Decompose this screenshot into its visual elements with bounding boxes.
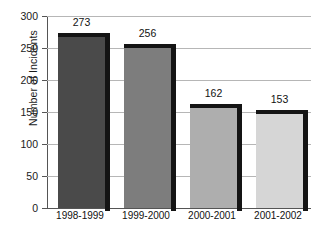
bar-body xyxy=(256,110,303,208)
bar-shadow xyxy=(105,33,110,211)
bar-body xyxy=(58,33,105,208)
y-tick-label: 200 xyxy=(0,75,38,86)
bar-value-label: 256 xyxy=(118,28,178,39)
gridline xyxy=(47,208,311,209)
bar xyxy=(124,44,176,208)
x-tick-label: 1999-2000 xyxy=(110,211,182,221)
bar-value-label: 273 xyxy=(52,17,112,28)
bar xyxy=(58,33,110,208)
bar-body xyxy=(124,44,171,208)
bar-value-label: 162 xyxy=(184,88,244,99)
x-tick-label: 1998-1999 xyxy=(44,211,116,221)
bar-shadow xyxy=(171,44,176,211)
plot-area xyxy=(47,16,311,208)
y-tick-label: 100 xyxy=(0,139,38,150)
bar-shadow xyxy=(237,104,242,211)
bar-shadow xyxy=(303,110,308,211)
y-tick-label: 50 xyxy=(0,171,38,182)
bar-value-label: 153 xyxy=(250,94,310,105)
bar xyxy=(256,110,308,208)
y-tick-label: 0 xyxy=(0,203,38,214)
y-tick-label: 150 xyxy=(0,107,38,118)
y-tick-label: 250 xyxy=(0,43,38,54)
bar xyxy=(190,104,242,208)
x-tick-label: 2000-2001 xyxy=(176,211,248,221)
bar-chart: Number of Incidents 050100150200250300 2… xyxy=(0,0,313,237)
x-tick-label: 2001-2002 xyxy=(242,211,313,221)
y-tick-label: 300 xyxy=(0,11,38,22)
bar-body xyxy=(190,104,237,208)
